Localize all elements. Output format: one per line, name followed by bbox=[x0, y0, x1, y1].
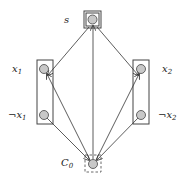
edge-s-x1 bbox=[48, 27, 89, 75]
label-x2: x2 bbox=[162, 63, 173, 76]
node-c0 bbox=[89, 160, 98, 169]
node-x1 bbox=[40, 65, 49, 74]
label-c0: C0 bbox=[61, 157, 74, 170]
node-x2 bbox=[137, 65, 146, 74]
node-notx1 bbox=[40, 111, 49, 120]
label-notx2: ¬x2 bbox=[158, 109, 177, 122]
label-s: s bbox=[64, 14, 69, 25]
label-notx1: ¬x1 bbox=[8, 109, 27, 122]
node-notx2 bbox=[137, 111, 146, 120]
label-x1: x1 bbox=[12, 63, 22, 76]
edge-notx1-c0 bbox=[47, 118, 89, 160]
node-s bbox=[88, 15, 97, 24]
graph-diagram: s x1 ¬x1 x2 ¬x2 C0 bbox=[0, 0, 184, 179]
edge-notx2-c0 bbox=[97, 118, 138, 160]
edge-s-x2 bbox=[97, 27, 138, 75]
